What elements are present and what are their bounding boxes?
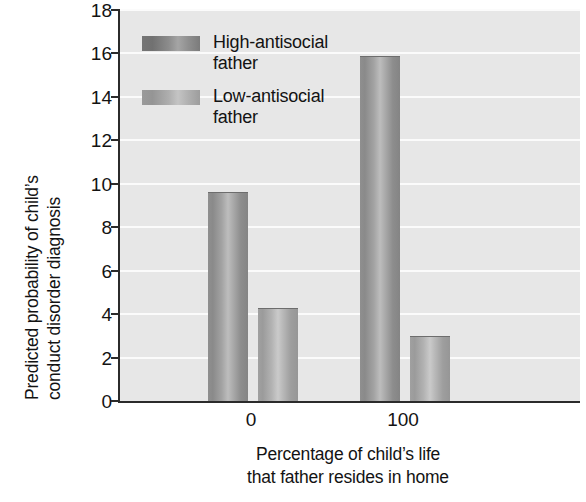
legend-label-line-1: High-antisocial [213,32,328,53]
legend-label-line-2: father [213,53,328,74]
bar [208,192,248,401]
legend-swatch [142,36,200,51]
y-axis-tick-label: 14 [68,88,112,107]
y-axis-tick-label: 4 [68,305,112,324]
x-axis-title-line-1: Percentage of child’s life [118,443,578,466]
gridline [120,226,580,228]
gridline [120,183,580,185]
gridline [120,357,580,359]
y-axis-tick-mark [111,139,120,141]
y-axis-tick-label: 2 [68,349,112,368]
y-axis-tick-label: 0 [68,392,112,411]
gridline [120,270,580,272]
y-axis-tick-mark [111,226,120,228]
y-axis-tick-mark [111,270,120,272]
y-axis-tick-label: 8 [68,218,112,237]
legend-label-line-1: Low-antisocial [213,86,324,107]
legend-item: High-antisocialfather [142,32,392,74]
y-axis-tick-mark [111,96,120,98]
x-axis-tick-label: 100 [363,410,443,429]
y-axis-tick-mark [111,357,120,359]
bar-chart-figure: Predicted probability of child’s conduct… [0,0,586,502]
y-axis-title-line-1: Predicted probability of child’s [22,175,43,400]
legend-label: High-antisocialfather [213,32,328,74]
y-axis-title-line-2: conduct disorder diagnosis [44,197,65,400]
y-axis-tick-label: 12 [68,131,112,150]
legend-swatch [142,90,200,105]
y-axis-tick-label: 10 [68,175,112,194]
gridline [120,313,580,315]
legend-item: Low-antisocialfather [142,86,392,128]
y-axis-tick-label: 16 [68,44,112,63]
gridline [120,9,580,11]
x-axis-title-line-2: that father resides in home [118,466,578,489]
y-axis-tick-label: 18 [68,1,112,20]
legend-label: Low-antisocialfather [213,86,324,128]
y-axis-tick-label: 6 [68,262,112,281]
bar [410,336,450,401]
plot-area: High-antisocialfatherLow-antisocialfathe… [118,10,580,403]
legend-label-line-2: father [213,107,324,128]
x-axis-tick-label: 0 [211,410,291,429]
y-axis-tick-labels: 024681012141618 [68,0,112,412]
y-axis-tick-mark [111,9,120,11]
y-axis-title: Predicted probability of child’s conduct… [0,0,62,412]
y-axis-tick-mark [111,52,120,54]
y-axis-tick-mark [111,183,120,185]
y-axis-tick-mark [111,400,120,402]
bar [258,308,298,401]
y-axis-tick-mark [111,313,120,315]
legend: High-antisocialfatherLow-antisocialfathe… [142,32,392,140]
x-axis-title: Percentage of child’s life that father r… [118,443,578,489]
